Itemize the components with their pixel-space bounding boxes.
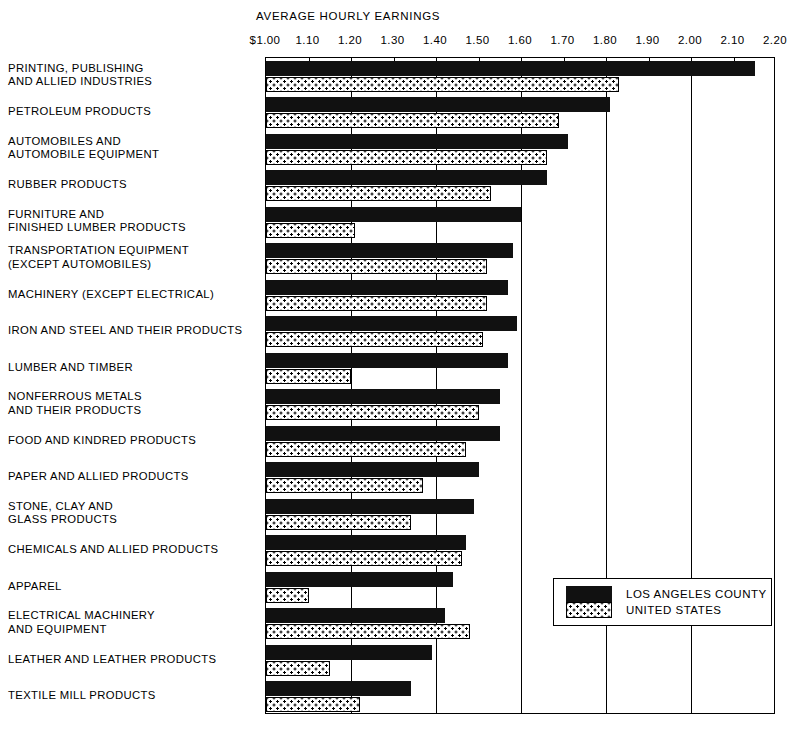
bar-los-angeles-county — [266, 389, 500, 404]
bar-los-angeles-county — [266, 499, 474, 514]
bar-los-angeles-county — [266, 572, 453, 587]
bar-united-states — [266, 697, 360, 712]
category-label: AUTOMOBILES AND AUTOMOBILE EQUIPMENT — [8, 135, 258, 162]
category-label: RUBBER PRODUCTS — [8, 178, 258, 192]
bar-united-states — [266, 551, 462, 566]
x-axis-tick-labels: $1.001.101.201.301.401.501.601.701.801.9… — [0, 34, 799, 50]
bar-united-states — [266, 150, 547, 165]
bar-los-angeles-county — [266, 316, 517, 331]
category-label: LEATHER AND LEATHER PRODUCTS — [8, 653, 258, 667]
category-label: PRINTING, PUBLISHING AND ALLIED INDUSTRI… — [8, 62, 258, 89]
x-tick-label: 2.10 — [721, 34, 745, 46]
bar-los-angeles-county — [266, 462, 479, 477]
category-label: APPAREL — [8, 580, 258, 594]
x-tick-label: 2.00 — [678, 34, 702, 46]
bar-united-states — [266, 515, 411, 530]
bar-los-angeles-county — [266, 134, 568, 149]
x-tick-label: 1.20 — [338, 34, 362, 46]
bar-los-angeles-county — [266, 207, 521, 222]
legend-swatch-los-angeles-county — [566, 586, 612, 602]
category-label: FURNITURE AND FINISHED LUMBER PRODUCTS — [8, 208, 258, 235]
x-tick-label: 1.80 — [593, 34, 617, 46]
bar-los-angeles-county — [266, 243, 513, 258]
bar-los-angeles-county — [266, 353, 508, 368]
x-tick-label: 2.20 — [763, 34, 787, 46]
bar-united-states — [266, 332, 483, 347]
category-label: LUMBER AND TIMBER — [8, 361, 258, 375]
category-label: ELECTRICAL MACHINERY AND EQUIPMENT — [8, 609, 258, 636]
bar-united-states — [266, 405, 479, 420]
category-label: NONFERROUS METALS AND THEIR PRODUCTS — [8, 390, 258, 417]
bar-united-states — [266, 186, 491, 201]
category-label: MACHINERY (EXCEPT ELECTRICAL) — [8, 288, 258, 302]
bar-los-angeles-county — [266, 61, 755, 76]
x-tick-label: 1.50 — [466, 34, 490, 46]
bar-united-states — [266, 369, 351, 384]
x-tick-label: 1.40 — [423, 34, 447, 46]
x-tick-label: 1.90 — [636, 34, 660, 46]
legend: LOS ANGELES COUNTY UNITED STATES — [553, 578, 772, 626]
bar-united-states — [266, 624, 470, 639]
bar-united-states — [266, 223, 355, 238]
bar-united-states — [266, 296, 487, 311]
bar-united-states — [266, 661, 330, 676]
chart-title: AVERAGE HOURLY EARNINGS — [256, 10, 440, 22]
category-label: IRON AND STEEL AND THEIR PRODUCTS — [8, 324, 258, 338]
bar-united-states — [266, 478, 423, 493]
bar-los-angeles-county — [266, 97, 610, 112]
x-tick-label: 1.60 — [508, 34, 532, 46]
bar-united-states — [266, 588, 309, 603]
x-tick-label: 1.10 — [296, 34, 320, 46]
category-label: TRANSPORTATION EQUIPMENT (EXCEPT AUTOMOB… — [8, 244, 258, 271]
bar-chart: AVERAGE HOURLY EARNINGS $1.001.101.201.3… — [0, 0, 799, 729]
category-label: STONE, CLAY AND GLASS PRODUCTS — [8, 500, 258, 527]
bar-los-angeles-county — [266, 426, 500, 441]
bar-los-angeles-county — [266, 608, 445, 623]
bar-united-states — [266, 442, 466, 457]
legend-swatches — [566, 586, 612, 619]
x-tick-label: $1.00 — [250, 34, 281, 46]
category-label: PETROLEUM PRODUCTS — [8, 105, 258, 119]
category-label: CHEMICALS AND ALLIED PRODUCTS — [8, 543, 258, 557]
bar-united-states — [266, 113, 559, 128]
bar-los-angeles-county — [266, 535, 466, 550]
bar-united-states — [266, 259, 487, 274]
category-label: FOOD AND KINDRED PRODUCTS — [8, 434, 258, 448]
bar-los-angeles-county — [266, 170, 547, 185]
bar-los-angeles-county — [266, 645, 432, 660]
category-label: TEXTILE MILL PRODUCTS — [8, 689, 258, 703]
x-tick-label: 1.30 — [381, 34, 405, 46]
bar-los-angeles-county — [266, 280, 508, 295]
bar-los-angeles-county — [266, 681, 411, 696]
x-tick-label: 1.70 — [551, 34, 575, 46]
category-labels: PRINTING, PUBLISHING AND ALLIED INDUSTRI… — [0, 57, 258, 714]
legend-label-united-states: UNITED STATES — [626, 604, 722, 616]
category-label: PAPER AND ALLIED PRODUCTS — [8, 470, 258, 484]
legend-label-los-angeles-county: LOS ANGELES COUNTY — [626, 588, 767, 600]
legend-swatch-united-states — [566, 602, 612, 618]
bar-united-states — [266, 77, 619, 92]
